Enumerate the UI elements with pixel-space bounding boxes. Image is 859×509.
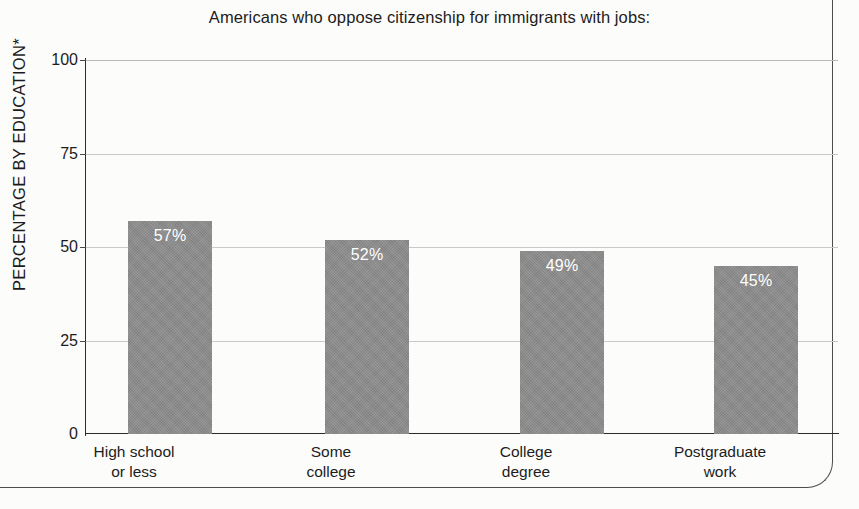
x-category-line2: degree [460, 462, 592, 482]
bar-value-label: 57% [128, 227, 212, 245]
y-tick-label-0: 0 [8, 425, 78, 443]
bar-some-college[interactable]: 52% [325, 240, 409, 435]
plot-area: 57% 52% 49% 45% [86, 60, 838, 434]
y-tick-label-25: 25 [8, 332, 78, 350]
chart-page: Americans who oppose citizenship for imm… [0, 0, 859, 509]
x-category-line1: High school [68, 442, 200, 462]
bar-postgraduate-work[interactable]: 45% [714, 266, 798, 434]
chart-title: Americans who oppose citizenship for imm… [0, 8, 859, 27]
gridline-75 [86, 154, 838, 155]
x-category-line2: work [654, 462, 786, 482]
x-category-line2: college [265, 462, 397, 482]
y-tick-mark-75 [80, 154, 86, 155]
bar-value-label: 49% [520, 257, 604, 275]
x-category-line2: or less [68, 462, 200, 482]
x-category-label-postgraduate-work: Postgraduate work [654, 442, 786, 482]
y-tick-mark-25 [80, 341, 86, 342]
x-category-label-college-degree: College degree [460, 442, 592, 482]
y-tick-label-100: 100 [8, 51, 78, 69]
x-category-line1: Some [265, 442, 397, 462]
x-category-line1: College [460, 442, 592, 462]
x-category-line1: Postgraduate [654, 442, 786, 462]
y-tick-mark-50 [80, 247, 86, 248]
y-axis-tick-labels: 100 75 50 25 0 [0, 60, 78, 434]
bar-college-degree[interactable]: 49% [520, 251, 604, 434]
x-category-label-high-school-or-less: High school or less [68, 442, 200, 482]
bar-high-school-or-less[interactable]: 57% [128, 221, 212, 434]
y-tick-label-75: 75 [8, 145, 78, 163]
y-tick-label-50: 50 [8, 238, 78, 256]
y-tick-mark-100 [80, 60, 86, 61]
bar-value-label: 45% [714, 272, 798, 290]
gridline-100 [86, 60, 838, 61]
bar-value-label: 52% [325, 246, 409, 264]
x-category-label-some-college: Some college [265, 442, 397, 482]
